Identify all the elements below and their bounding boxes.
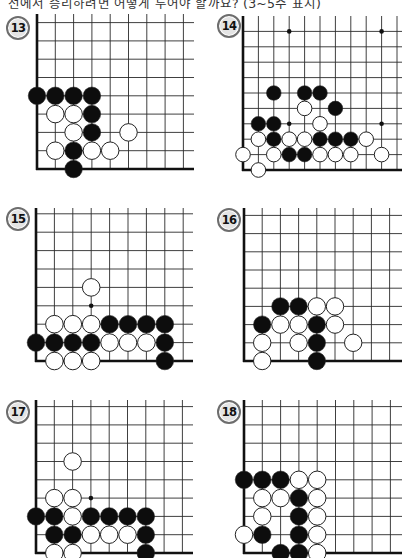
black-stone: [290, 489, 308, 507]
black-stone: [82, 508, 100, 526]
black-stone: [272, 298, 289, 315]
black-stone: [235, 471, 253, 489]
black-stone: [156, 352, 174, 370]
white-stone: [254, 334, 271, 351]
go-problems-canvas: [0, 0, 402, 558]
white-stone: [308, 526, 326, 544]
black-stone: [83, 124, 101, 142]
star-point: [89, 496, 94, 501]
star-point: [379, 29, 384, 34]
star-point: [287, 122, 292, 127]
black-stone: [251, 117, 266, 132]
black-stone: [138, 315, 156, 333]
black-stone: [297, 147, 312, 162]
black-stone: [64, 334, 82, 352]
black-stone: [119, 508, 137, 526]
white-stone: [254, 352, 271, 369]
black-stone: [313, 132, 328, 147]
white-stone: [267, 147, 282, 162]
black-stone: [100, 508, 118, 526]
black-stone: [101, 315, 119, 333]
white-stone: [47, 105, 65, 123]
black-stone: [290, 526, 308, 544]
white-stone: [46, 544, 64, 558]
black-stone: [267, 86, 282, 101]
problem-number-badge: 14: [217, 14, 241, 38]
black-stone: [27, 334, 45, 352]
white-stone: [272, 489, 290, 507]
white-stone: [251, 132, 266, 147]
black-stone: [47, 87, 65, 105]
white-stone: [82, 279, 100, 297]
white-stone: [65, 124, 83, 142]
black-stone: [65, 87, 83, 105]
white-stone: [297, 132, 312, 147]
white-stone: [326, 298, 343, 315]
black-stone: [137, 508, 155, 526]
black-stone: [83, 105, 101, 123]
black-stone: [297, 86, 312, 101]
white-stone: [308, 508, 326, 526]
black-stone: [137, 526, 155, 544]
problem-number-badge: 17: [6, 400, 30, 424]
white-stone: [119, 334, 137, 352]
problem-number-badge: 18: [217, 400, 241, 424]
black-stone: [156, 315, 174, 333]
white-stone: [64, 352, 82, 370]
white-stone: [46, 489, 64, 507]
go-board-17: [27, 400, 193, 558]
black-stone: [28, 87, 46, 105]
white-stone: [64, 489, 82, 507]
white-stone: [313, 117, 328, 132]
white-stone: [65, 105, 83, 123]
black-stone: [46, 526, 64, 544]
problem-number-badge: 16: [217, 208, 241, 232]
black-stone: [254, 316, 271, 333]
black-stone: [308, 334, 325, 351]
white-stone: [83, 142, 101, 160]
black-stone: [308, 352, 325, 369]
go-board-16: [243, 208, 402, 370]
black-stone: [267, 117, 282, 132]
white-stone: [101, 334, 119, 352]
white-stone: [313, 147, 328, 162]
black-stone: [119, 315, 137, 333]
white-stone: [47, 142, 65, 160]
go-board-14: [236, 16, 402, 177]
black-stone: [344, 132, 359, 147]
white-stone: [308, 471, 326, 489]
white-stone: [359, 132, 374, 147]
white-stone: [82, 315, 100, 333]
black-stone: [313, 86, 328, 101]
white-stone: [64, 453, 82, 471]
black-stone: [272, 544, 290, 558]
black-stone: [254, 471, 272, 489]
white-stone: [64, 315, 82, 333]
white-stone: [46, 352, 64, 370]
black-stone: [328, 132, 343, 147]
white-stone: [46, 315, 64, 333]
go-board-18: [235, 400, 402, 558]
problem-number-badge: 13: [6, 16, 30, 40]
black-stone: [137, 544, 155, 558]
black-stone: [290, 544, 308, 558]
white-stone: [251, 163, 266, 178]
black-stone: [328, 101, 343, 116]
black-stone: [65, 142, 83, 160]
white-stone: [345, 334, 362, 351]
white-stone: [308, 298, 325, 315]
white-stone: [344, 147, 359, 162]
black-stone: [267, 132, 282, 147]
black-stone: [272, 471, 290, 489]
white-stone: [326, 316, 343, 333]
black-stone: [290, 298, 307, 315]
white-stone: [374, 147, 389, 162]
black-stone: [27, 508, 45, 526]
white-stone: [254, 508, 272, 526]
star-point: [379, 122, 384, 127]
white-stone: [290, 334, 307, 351]
white-stone: [100, 526, 118, 544]
black-stone: [83, 87, 101, 105]
white-stone: [290, 316, 307, 333]
star-point: [89, 304, 94, 309]
